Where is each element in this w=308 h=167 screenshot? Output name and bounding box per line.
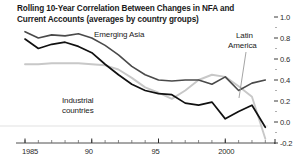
y-axis-tick-label: -0.2 (280, 139, 292, 148)
chart-container: Rolling 10-Year Correlation Between Chan… (0, 0, 308, 167)
x-axis-tick-label: 95 (152, 147, 160, 156)
series-label: Latin (236, 31, 253, 41)
series-label: America (228, 41, 257, 51)
y-axis-tick-label: 0.6 (280, 55, 290, 64)
series-label: Emerging Asia (94, 30, 144, 40)
x-axis-tick-label: 90 (85, 147, 93, 156)
plot-area (0, 0, 308, 167)
series-label: countries (62, 106, 94, 116)
series-label: Industrial (62, 96, 93, 106)
y-axis-tick-label: 0.2 (280, 97, 290, 106)
x-axis-tick-label: 1985 (22, 147, 38, 156)
y-axis-tick-label: 0.0 (280, 118, 290, 127)
y-axis-tick-label: 1.0 (280, 13, 290, 22)
x-axis-tick-label: 2000 (218, 147, 234, 156)
y-axis-tick-label: 0.8 (280, 34, 290, 43)
y-axis-tick-label: 0.4 (280, 76, 290, 85)
